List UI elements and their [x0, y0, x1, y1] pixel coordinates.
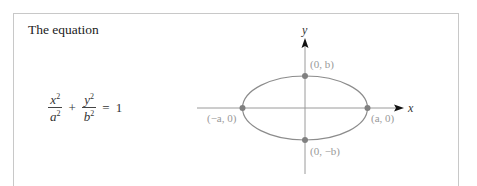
label-top-vertex: (0, b): [310, 58, 334, 71]
label-left-vertex: (−a, 0): [207, 112, 237, 125]
vertex-left: [240, 105, 246, 111]
vertex-bottom: [302, 137, 308, 143]
y-axis-label: y: [301, 23, 308, 37]
vertex-top: [302, 73, 308, 79]
label-right-vertex: (a, 0): [371, 112, 395, 125]
x-axis-label: x: [407, 101, 414, 115]
vertex-right: [365, 105, 371, 111]
ellipse-diagram: y x (0, b) (0, −b) (−a, 0) (a, 0): [0, 0, 477, 186]
label-bottom-vertex: (0, −b): [310, 145, 340, 158]
